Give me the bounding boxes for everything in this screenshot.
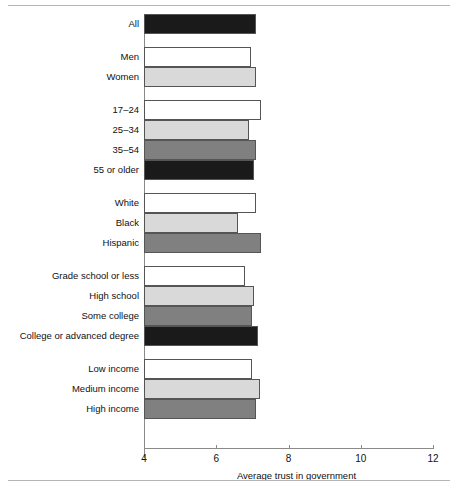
bar-category-label: Grade school or less <box>52 266 144 286</box>
bar-category-label: High school <box>89 286 144 306</box>
bar-row: High income <box>0 399 458 419</box>
bar-row: 25–34 <box>0 120 458 140</box>
bar-category-label: Low income <box>88 359 144 379</box>
bar-category-label: Men <box>121 47 144 67</box>
x-axis: 4681012 Average trust in government <box>0 448 458 492</box>
x-axis-tick <box>361 445 362 449</box>
bar <box>144 100 261 120</box>
bar <box>144 160 254 180</box>
bar-category-label: All <box>128 14 144 34</box>
bar-row: All <box>0 14 458 34</box>
bar <box>144 233 261 253</box>
bar-row: White <box>0 193 458 213</box>
bar <box>144 326 258 346</box>
bar-row: Some college <box>0 306 458 326</box>
bar-row: Black <box>0 213 458 233</box>
bar <box>144 399 256 419</box>
bottom-divider-rule <box>8 480 450 481</box>
bar <box>144 14 256 34</box>
bar-row: Low income <box>0 359 458 379</box>
bar-category-label: 17–24 <box>113 100 144 120</box>
bar <box>144 193 256 213</box>
bar-category-label: 25–34 <box>113 120 144 140</box>
bar-category-label: Women <box>106 67 144 87</box>
bar <box>144 359 252 379</box>
bar-row: College or advanced degree <box>0 326 458 346</box>
bar <box>144 379 260 399</box>
bar-row: High school <box>0 286 458 306</box>
bar <box>144 266 245 286</box>
bar <box>144 67 256 87</box>
bar <box>144 47 251 67</box>
bar <box>144 213 238 233</box>
bar-category-label: White <box>115 193 144 213</box>
figure: AllMenWomen17–2425–3435–5455 or olderWhi… <box>0 0 458 497</box>
x-axis-tick <box>144 445 145 449</box>
x-axis-tick <box>433 445 434 449</box>
bar-row: Women <box>0 67 458 87</box>
bar-row: Grade school or less <box>0 266 458 286</box>
bar <box>144 286 254 306</box>
bar-row: Hispanic <box>0 233 458 253</box>
bar-row: 17–24 <box>0 100 458 120</box>
x-axis-tick-label: 8 <box>286 453 292 464</box>
bar-category-label: Some college <box>81 306 144 326</box>
x-axis-tick-label: 4 <box>141 453 147 464</box>
x-axis-tick-label: 12 <box>427 453 438 464</box>
bar-category-label: College or advanced degree <box>20 326 144 346</box>
bar-category-label: Medium income <box>72 379 144 399</box>
bar-category-label: High income <box>86 399 144 419</box>
top-divider-rule <box>8 5 450 6</box>
bar-row: 55 or older <box>0 160 458 180</box>
bar-row: Men <box>0 47 458 67</box>
x-axis-tick-label: 10 <box>355 453 366 464</box>
bar-chart-plot-area: AllMenWomen17–2425–3435–5455 or olderWhi… <box>0 14 458 444</box>
bar <box>144 306 252 326</box>
x-axis-tick <box>289 445 290 449</box>
bar-row: Medium income <box>0 379 458 399</box>
bar-category-label: Hispanic <box>103 233 144 253</box>
bar <box>144 120 249 140</box>
bar <box>144 140 256 160</box>
bar-category-label: Black <box>116 213 144 233</box>
x-axis-tick-label: 6 <box>213 453 219 464</box>
bar-row: 35–54 <box>0 140 458 160</box>
bar-category-label: 55 or older <box>94 160 144 180</box>
bar-category-label: 35–54 <box>113 140 144 160</box>
x-axis-tick <box>216 445 217 449</box>
